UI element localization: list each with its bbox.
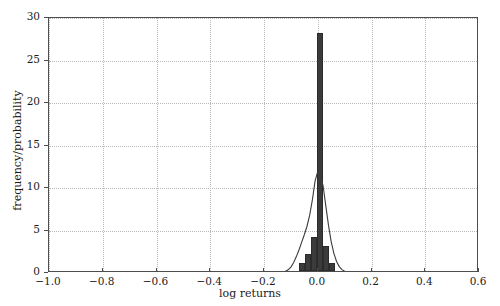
y-tick-label: 30 xyxy=(6,10,40,22)
y-tick-label: 25 xyxy=(6,53,40,65)
x-tick-mark xyxy=(478,268,479,272)
x-tick-mark xyxy=(48,268,49,272)
x-tick-label: 0.6 xyxy=(448,275,500,287)
x-tick-label: −0.8 xyxy=(72,275,132,287)
y-tick-label: 0 xyxy=(6,265,40,277)
x-tick-label: −0.2 xyxy=(233,275,293,287)
x-tick-label: 0.0 xyxy=(287,275,347,287)
x-tick-mark xyxy=(102,268,103,272)
x-tick-label: −0.4 xyxy=(179,275,239,287)
x-tick-mark xyxy=(209,268,210,272)
y-tick-mark xyxy=(44,145,48,146)
x-tick-mark xyxy=(156,268,157,272)
plot-area xyxy=(48,17,478,272)
y-tick-mark xyxy=(44,272,48,273)
x-tick-label: 0.4 xyxy=(394,275,454,287)
x-tick-mark xyxy=(317,268,318,272)
x-tick-label: −0.6 xyxy=(126,275,186,287)
x-tick-label: 0.2 xyxy=(341,275,401,287)
y-tick-mark xyxy=(44,17,48,18)
y-tick-mark xyxy=(44,230,48,231)
y-tick-mark xyxy=(44,102,48,103)
histogram-figure: −1.0−0.8−0.6−0.4−0.20.00.20.40.605101520… xyxy=(0,0,500,306)
y-tick-mark xyxy=(44,60,48,61)
x-tick-mark xyxy=(424,268,425,272)
y-axis-label: frequency/probability xyxy=(11,76,24,226)
x-tick-mark xyxy=(263,268,264,272)
x-tick-mark xyxy=(371,268,372,272)
kde-curve xyxy=(49,18,478,272)
x-axis-label: log returns xyxy=(0,287,500,300)
y-tick-mark xyxy=(44,187,48,188)
